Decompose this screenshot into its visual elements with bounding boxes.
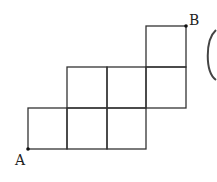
cell-top-4 (146, 26, 186, 67)
label-a: A (14, 152, 26, 168)
point-a-dot (26, 147, 30, 151)
point-b-dot (184, 24, 188, 28)
cell-bottom-2 (67, 108, 107, 149)
label-b: B (189, 12, 199, 28)
grid-lines (28, 26, 186, 149)
grid-diagram: A B (0, 0, 217, 182)
partial-parenthesis-glyph (208, 30, 216, 80)
cell-bottom-1 (28, 108, 67, 149)
cell-middle-2 (67, 67, 107, 108)
cell-middle-3 (107, 67, 146, 108)
cell-middle-4 (146, 67, 186, 108)
cell-bottom-3 (107, 108, 146, 149)
